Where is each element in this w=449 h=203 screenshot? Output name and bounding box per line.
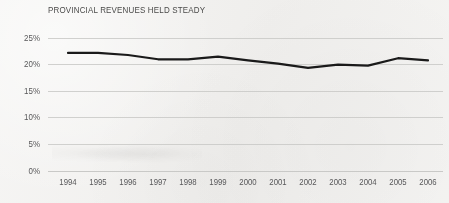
y-tick-label: 10% (2, 112, 40, 122)
x-tick-label: 1999 (202, 178, 234, 187)
x-tick-label: 1998 (172, 178, 204, 187)
series-line-0 (68, 53, 428, 68)
y-tick-label: 20% (2, 59, 40, 69)
x-tick-label: 1996 (112, 178, 144, 187)
x-tick-label: 2000 (232, 178, 264, 187)
y-tick-label: 25% (2, 33, 40, 43)
x-tick-label: 2006 (412, 178, 444, 187)
x-tick-label: 2003 (322, 178, 354, 187)
x-tick-label: 2001 (262, 178, 294, 187)
x-tick-label: 2005 (382, 178, 414, 187)
x-tick-label: 1994 (52, 178, 84, 187)
data-series-group (68, 53, 428, 68)
chart-container: PROVINCIAL REVENUES HELD STEADY 0%5%10%1… (0, 0, 449, 203)
plot-area (0, 0, 449, 203)
x-tick-label: 1997 (142, 178, 174, 187)
gridlines (48, 38, 443, 171)
y-tick-label: 15% (2, 86, 40, 96)
x-tick-label: 1995 (82, 178, 114, 187)
y-tick-label: 5% (2, 139, 40, 149)
x-tick-label: 2004 (352, 178, 384, 187)
y-tick-label: 0% (2, 166, 40, 176)
x-tick-label: 2002 (292, 178, 324, 187)
